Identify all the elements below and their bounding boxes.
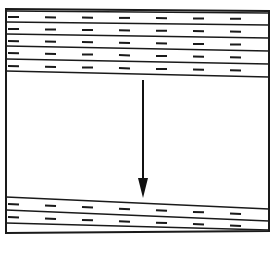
hatch-dash <box>82 207 93 208</box>
figure-root <box>0 0 275 257</box>
hatch-dash <box>119 209 130 210</box>
hatch-dash <box>156 210 167 211</box>
hatch-dash <box>193 224 204 225</box>
middle-interval-fill <box>6 77 269 209</box>
hatch-dash <box>45 218 56 219</box>
hatch-dash <box>8 204 19 205</box>
middle-unpatterned-interval <box>6 77 269 209</box>
cross-section-diagram <box>0 0 275 257</box>
hatch-dash <box>230 213 241 214</box>
